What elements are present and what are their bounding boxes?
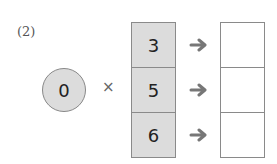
answer-column [220, 22, 265, 158]
answer-cell[interactable] [221, 23, 264, 68]
input-cell: 6 [132, 113, 175, 157]
input-column: 3 5 6 [131, 22, 176, 158]
right-arrow-icon [189, 38, 209, 52]
right-arrow-icon [189, 83, 209, 97]
input-cell: 5 [132, 68, 175, 113]
problem-number: (2) [17, 24, 35, 39]
multiplier-circle: 0 [42, 68, 86, 112]
multiplier-value: 0 [58, 80, 69, 101]
answer-cell[interactable] [221, 68, 264, 113]
right-arrow-icon [189, 128, 209, 142]
answer-cell[interactable] [221, 113, 264, 157]
input-cell: 3 [132, 23, 175, 68]
multiply-sign: × [102, 78, 115, 96]
